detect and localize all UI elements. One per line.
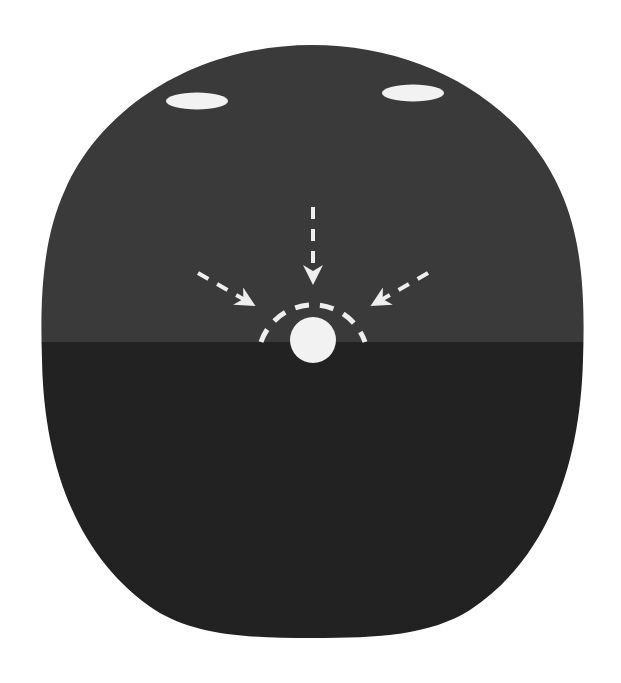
right-eye xyxy=(382,85,444,102)
center-dot xyxy=(290,317,336,363)
head-diagram xyxy=(0,0,621,683)
left-eye xyxy=(166,93,228,110)
head-lower-region xyxy=(0,342,621,683)
head-upper-region xyxy=(0,0,621,342)
